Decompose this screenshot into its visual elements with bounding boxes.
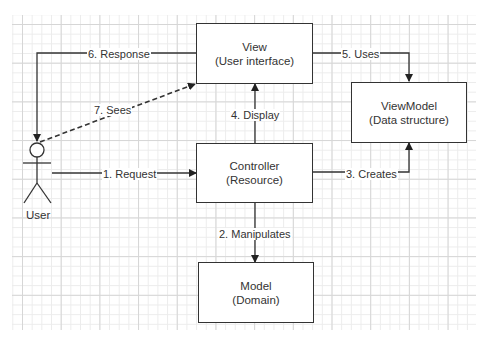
- viewmodel-title: ViewModel: [381, 99, 437, 113]
- edge-label-uses: 5. Uses: [341, 48, 380, 60]
- diagram-canvas: User View (User interface) ViewModel (Da…: [0, 0, 489, 344]
- edge-label-request: 1. Request: [102, 168, 157, 180]
- edge-label-manipulates: 2. Manipulates: [218, 228, 292, 240]
- controller-node[interactable]: Controller (Resource): [196, 143, 313, 203]
- controller-title: Controller: [230, 159, 280, 173]
- edge-response: [37, 53, 196, 141]
- edge-label-response: 6. Response: [87, 48, 151, 60]
- viewmodel-node[interactable]: ViewModel (Data structure): [351, 82, 467, 143]
- controller-subtitle: (Resource): [226, 173, 283, 187]
- user-actor-icon[interactable]: [23, 143, 51, 203]
- view-node[interactable]: View (User interface): [196, 23, 313, 84]
- edge-label-creates: 3. Creates: [345, 168, 398, 180]
- model-title: Model: [240, 279, 271, 293]
- edge-label-display: 4. Display: [230, 109, 280, 121]
- view-subtitle: (User interface): [215, 54, 294, 68]
- view-title: View: [242, 40, 267, 54]
- model-subtitle: (Domain): [232, 293, 279, 307]
- viewmodel-subtitle: (Data structure): [369, 113, 449, 127]
- model-node[interactable]: Model (Domain): [198, 262, 314, 323]
- user-label: User: [26, 209, 50, 221]
- edge-label-sees: 7. Sees: [93, 104, 132, 116]
